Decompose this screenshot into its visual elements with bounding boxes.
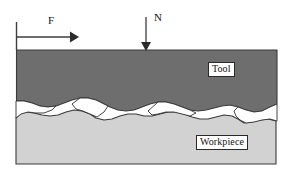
force-n-arrow bbox=[141, 17, 151, 51]
force-n-label: N bbox=[154, 11, 162, 23]
force-f-label: F bbox=[48, 14, 54, 26]
tool-body bbox=[17, 50, 278, 112]
force-f-arrowhead bbox=[70, 32, 79, 43]
workpiece-label: Workpiece bbox=[196, 135, 248, 150]
figure-root: F N Tool Workpiece bbox=[0, 0, 286, 178]
contact-diagram-svg bbox=[0, 0, 286, 178]
force-f-arrow bbox=[17, 22, 80, 50]
tool-label: Tool bbox=[208, 62, 235, 77]
tool-shape bbox=[17, 50, 278, 112]
